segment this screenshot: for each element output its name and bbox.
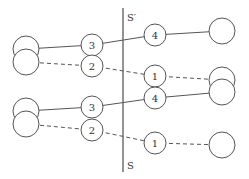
node-bottom-2: 2 [81,119,103,141]
node-mid-right-lower [209,79,235,105]
node-label: 2 [89,125,95,136]
node-top-4: 4 [144,24,166,46]
boundary-label-s-prime: S′ [127,12,137,23]
node-circle [13,49,39,75]
node-label: 1 [152,138,158,149]
boundary-label-s: S [127,160,134,171]
node-label: 4 [152,93,158,104]
node-bottom-4: 4 [144,87,166,109]
node-circle [209,79,235,105]
node-bottom-1: 1 [144,132,166,154]
node-top-left-lower [13,49,39,75]
node-label: 2 [89,61,95,72]
node-bottom-3: 3 [81,96,103,118]
nodes-layer: 32413241 [13,18,235,158]
node-bottom-left-lower [13,111,39,137]
node-top-1: 1 [144,65,166,87]
node-label: 3 [89,102,95,113]
node-circle [13,111,39,137]
edges-layer [26,31,222,145]
node-label: 3 [89,40,95,51]
node-circle [209,132,235,158]
node-label: 4 [152,30,158,41]
node-bottom-right [209,132,235,158]
node-top-right [209,18,235,44]
node-top-3: 3 [81,34,103,56]
network-diagram: S′ S 32413241 [0,0,249,179]
node-top-2: 2 [81,55,103,77]
node-circle [209,18,235,44]
node-label: 1 [152,71,158,82]
